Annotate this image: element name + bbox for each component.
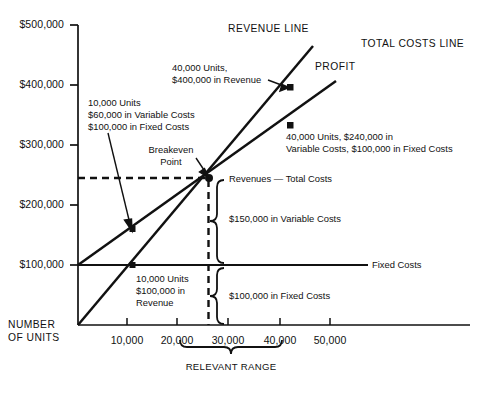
callout-revenue-point-line2: $400,000 in Revenue bbox=[172, 74, 261, 85]
marker-totalcost-40000 bbox=[287, 122, 294, 129]
marker-revenue-10000 bbox=[130, 262, 136, 268]
callout-cost-point-line1: 40,000 Units, $240,000 in bbox=[286, 131, 393, 142]
y-axis-label-400000: $400,000 bbox=[0, 78, 64, 91]
callout-revenue-point-line1: 40,000 Units, bbox=[172, 62, 227, 73]
brace-label-variable-costs: $150,000 in Variable Costs bbox=[229, 213, 341, 224]
series-label-total-costs-line: TOTAL COSTS LINE bbox=[361, 38, 464, 51]
callout-left-line1: 10,000 Units bbox=[88, 97, 141, 108]
y-axis-label-200000: $200,000 bbox=[0, 198, 64, 211]
callout-revenue-10k-line2: $100,000 in bbox=[136, 285, 185, 296]
x-axis-label-30000: 30,000 bbox=[198, 334, 258, 347]
y-axis-label-300000: $300,000 bbox=[0, 138, 64, 151]
brace-fixed-costs bbox=[210, 268, 224, 324]
series-label-revenue-line: REVENUE LINE bbox=[228, 23, 309, 36]
brace-variable-costs bbox=[210, 180, 224, 263]
breakeven-chart: $500,000 $400,000 $300,000 $200,000 $100… bbox=[0, 0, 487, 393]
x-axis-title-line1: NUMBER bbox=[8, 319, 55, 332]
callout-cost-point-line2: Variable Costs, $100,000 in Fixed Costs bbox=[286, 143, 453, 154]
brace-label-fixed-costs: $100,000 in Fixed Costs bbox=[229, 290, 330, 301]
callout-left-line3: $100,000 in Fixed Costs bbox=[88, 121, 189, 132]
series-label-profit: PROFIT bbox=[315, 61, 355, 74]
y-axis-label-500000: $500,000 bbox=[0, 18, 64, 31]
callout-revenue-10k-line3: Revenue bbox=[136, 297, 174, 308]
callout-breakeven-line2: Point bbox=[126, 156, 216, 167]
y-axis-label-100000: $100,000 bbox=[0, 258, 64, 271]
series-label-fixed-costs: Fixed Costs bbox=[372, 259, 422, 270]
callout-revenue-10k-line1: 10,000 Units bbox=[136, 273, 189, 284]
brace-label-revenues-minus-total-costs: Revenues — Total Costs bbox=[229, 173, 332, 184]
relevant-range-label: RELEVANT RANGE bbox=[171, 361, 291, 373]
callout-breakeven-line1: Breakeven bbox=[126, 144, 216, 155]
callout-left-line2: $60,000 in Variable Costs bbox=[88, 109, 195, 120]
x-axis-title-line2: OF UNITS bbox=[8, 332, 60, 345]
series-revenue-line bbox=[78, 46, 313, 325]
x-axis-label-50000: 50,000 bbox=[300, 334, 360, 347]
